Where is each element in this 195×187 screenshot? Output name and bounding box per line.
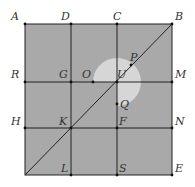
point-q xyxy=(116,103,119,106)
label-m: M xyxy=(174,68,187,81)
point-h xyxy=(24,127,27,130)
label-n: N xyxy=(174,115,185,128)
point-n xyxy=(171,127,174,130)
point-l xyxy=(70,174,73,177)
point-p xyxy=(130,64,133,67)
label-d: D xyxy=(60,10,70,23)
point-m xyxy=(171,81,174,84)
label-f: F xyxy=(118,115,127,128)
point-b xyxy=(171,23,174,26)
label-s: S xyxy=(119,162,127,175)
label-b: B xyxy=(174,10,183,23)
point-f xyxy=(116,127,119,130)
label-o: O xyxy=(82,68,91,81)
label-g: G xyxy=(59,68,68,81)
point-c xyxy=(116,23,119,26)
label-e: E xyxy=(174,162,183,175)
point-a xyxy=(24,23,27,26)
point-g xyxy=(70,81,73,84)
label-k: K xyxy=(58,115,68,128)
point-k xyxy=(70,127,73,130)
point-d xyxy=(70,23,73,26)
point-r xyxy=(24,81,27,84)
label-c: C xyxy=(113,10,122,23)
point-o xyxy=(92,81,95,84)
point-u xyxy=(116,81,119,84)
label-p: P xyxy=(129,51,138,64)
geometry-diagram: ADCBRGOUPMQHKFNLSE xyxy=(0,0,195,187)
label-u: U xyxy=(117,68,127,81)
label-q: Q xyxy=(120,98,129,111)
label-a: A xyxy=(10,10,19,23)
point-e xyxy=(171,174,174,177)
point-s xyxy=(116,174,119,177)
label-r: R xyxy=(10,68,19,81)
label-h: H xyxy=(10,115,21,128)
label-l: L xyxy=(60,162,68,175)
